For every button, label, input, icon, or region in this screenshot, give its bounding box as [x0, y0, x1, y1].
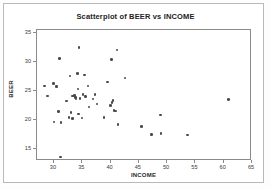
y-axis-label: BEER: [8, 69, 14, 109]
x-tick-mark: [166, 160, 167, 163]
data-point: [112, 99, 115, 102]
data-point: [68, 116, 71, 119]
data-point: [53, 121, 56, 124]
data-point: [96, 103, 99, 106]
data-point: [58, 57, 61, 60]
x-tick-mark: [194, 160, 195, 163]
data-point: [116, 49, 119, 52]
data-point: [160, 132, 163, 135]
data-point: [76, 72, 79, 75]
data-point: [124, 77, 127, 80]
x-tick-mark: [81, 160, 82, 163]
x-tick-label: 35: [71, 164, 91, 170]
x-tick-label: 40: [100, 164, 120, 170]
data-point: [87, 85, 90, 88]
data-point: [106, 81, 109, 84]
data-point: [114, 110, 117, 113]
x-tick-label: 55: [184, 164, 204, 170]
data-point: [79, 97, 82, 100]
x-axis-label: INCOME: [36, 172, 251, 178]
data-point: [43, 85, 46, 88]
data-point: [75, 98, 78, 101]
data-point: [186, 134, 189, 137]
data-point: [59, 156, 62, 159]
x-tick-mark: [251, 160, 252, 163]
data-point: [78, 46, 81, 49]
data-point: [92, 98, 95, 101]
data-point: [110, 58, 113, 61]
x-tick-label: 30: [43, 164, 63, 170]
data-point: [84, 95, 87, 98]
data-point: [55, 85, 58, 88]
x-tick-label: 45: [128, 164, 148, 170]
x-tick-mark: [138, 160, 139, 163]
data-point: [81, 117, 84, 120]
data-point: [83, 74, 86, 77]
data-point: [140, 125, 143, 128]
data-point: [150, 133, 153, 136]
data-point: [109, 104, 112, 107]
data-point: [69, 75, 72, 78]
x-tick-label: 50: [156, 164, 176, 170]
data-point: [57, 110, 60, 113]
data-point: [103, 116, 106, 119]
data-point: [94, 93, 97, 96]
data-point: [227, 98, 230, 101]
data-point: [70, 111, 73, 114]
data-point: [159, 114, 162, 117]
data-point: [60, 121, 63, 124]
data-point: [71, 117, 74, 120]
data-point: [88, 106, 91, 109]
x-tick-label: 60: [213, 164, 233, 170]
x-tick-mark: [223, 160, 224, 163]
data-point: [77, 113, 80, 116]
data-point: [117, 123, 120, 126]
x-tick-mark: [53, 160, 54, 163]
data-point: [65, 100, 68, 103]
plot-area: [36, 29, 251, 160]
data-point: [77, 88, 80, 91]
x-tick-label: 65: [241, 164, 261, 170]
data-point: [46, 95, 49, 98]
x-tick-mark: [110, 160, 111, 163]
scatterplot-figure: Scatterplot of BEER vs INCOME 1520253035…: [0, 0, 271, 189]
